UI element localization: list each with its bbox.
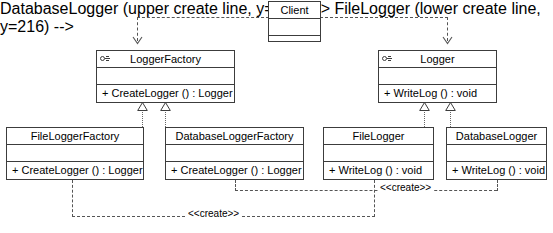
dependency-arrowhead-loggerfactory xyxy=(132,36,143,45)
class-operations-client xyxy=(269,36,320,42)
class-name-fileloggerfactory: FileLoggerFactory xyxy=(7,128,143,145)
class-attributes-databaselogger xyxy=(447,145,546,162)
realization-arrowhead-logger-left xyxy=(419,102,429,110)
class-name-loggerfactory: LoggerFactory xyxy=(97,51,234,68)
class-box-client[interactable]: Client xyxy=(268,1,321,42)
class-name-databaselogger: DatabaseLogger xyxy=(447,128,546,145)
create-upper-horizontal xyxy=(235,190,497,191)
class-box-databaseloggerfactory[interactable]: DatabaseLoggerFactory + CreateLogger () … xyxy=(165,127,304,180)
interface-lollipop-icon xyxy=(100,55,111,64)
class-operations-databaselogger: + WriteLog () : void xyxy=(447,162,546,179)
class-box-filelogger[interactable]: FileLogger + WriteLog () : void xyxy=(323,127,434,180)
class-operations-fileloggerfactory: + CreateLogger () : Logger xyxy=(7,162,143,179)
realization-arrowhead-logger-right xyxy=(445,102,455,110)
class-name-databaseloggerfactory: DatabaseLoggerFactory xyxy=(166,128,303,145)
realization-arrowhead-loggerfactory-left xyxy=(137,102,147,110)
class-attributes-databaseloggerfactory xyxy=(166,145,303,162)
class-name-logger: Logger xyxy=(379,51,496,68)
uml-class-diagram: DatabaseLogger (upper create line, y=190… xyxy=(0,0,553,233)
class-box-loggerfactory[interactable]: LoggerFactory + CreateLogger () : Logger xyxy=(96,50,235,103)
class-attributes-logger xyxy=(379,68,496,85)
class-attributes-loggerfactory xyxy=(97,68,234,85)
class-box-fileloggerfactory[interactable]: FileLoggerFactory + CreateLogger () : Lo… xyxy=(6,127,144,180)
class-box-logger[interactable]: Logger + WriteLog () : void xyxy=(378,50,497,103)
create-lower-target-riser xyxy=(374,180,375,217)
class-operations-databaseloggerfactory: + CreateLogger () : Logger xyxy=(166,162,303,179)
dependency-arrowhead-logger xyxy=(442,36,453,45)
class-operations-filelogger: + WriteLog () : void xyxy=(324,162,433,179)
dependency-client-to-loggerfactory-horizontal xyxy=(137,17,269,18)
stereotype-create-upper: <<create>> xyxy=(378,182,433,193)
class-name-logger-label: Logger xyxy=(420,53,454,65)
class-name-filelogger: FileLogger xyxy=(324,128,433,145)
create-upper-target-riser xyxy=(497,180,498,191)
class-attributes-client xyxy=(269,19,320,36)
interface-lollipop-icon xyxy=(382,55,393,64)
class-operations-loggerfactory: + CreateLogger () : Logger xyxy=(97,85,234,102)
realization-arrowhead-loggerfactory-right xyxy=(160,102,170,110)
create-lower-source-riser xyxy=(72,180,73,217)
class-name-loggerfactory-label: LoggerFactory xyxy=(130,53,201,65)
class-attributes-fileloggerfactory xyxy=(7,145,143,162)
dependency-client-to-logger-horizontal xyxy=(320,17,448,18)
class-attributes-filelogger xyxy=(324,145,433,162)
class-box-databaselogger[interactable]: DatabaseLogger + WriteLog () : void xyxy=(446,127,547,180)
stereotype-create-lower: <<create>> xyxy=(186,208,241,219)
class-operations-logger: + WriteLog () : void xyxy=(379,85,496,102)
class-name-client: Client xyxy=(269,2,320,19)
